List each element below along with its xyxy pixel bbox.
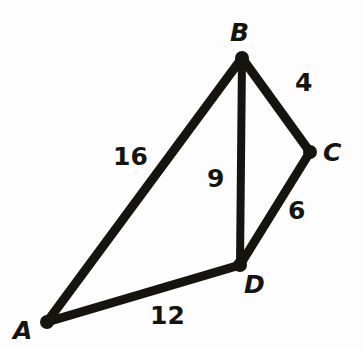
edge-length-label-cd: 6 <box>288 198 305 223</box>
vertex-label-a: A <box>13 318 32 343</box>
vertex-label-b: B <box>230 20 249 45</box>
vertex-dot-b <box>235 51 249 65</box>
vertex-label-d: D <box>244 272 265 297</box>
edge-length-label-bd: 9 <box>207 166 224 191</box>
edge-length-label-bc: 4 <box>295 70 312 95</box>
vertex-dot-c <box>303 145 317 159</box>
edge-length-label-ab: 16 <box>113 144 148 169</box>
diagram-canvas <box>0 0 363 350</box>
vertex-dot-a <box>40 315 54 329</box>
edge-length-label-ad: 12 <box>150 303 185 328</box>
edge-ad <box>47 265 240 322</box>
geometry-diagram: A B C D 16 9 4 6 12 <box>0 0 363 350</box>
vertex-label-c: C <box>323 140 341 165</box>
edge-bd <box>240 58 242 265</box>
